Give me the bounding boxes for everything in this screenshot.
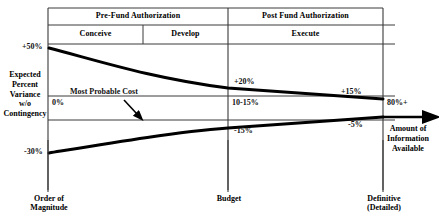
upper-value-order-of-magnitude: +50% (22, 43, 43, 51)
header-stage-execute: Execute (228, 29, 383, 38)
milestone-definitive-line-1: Definitive (351, 194, 417, 203)
milestone-order-of-magnitude-line-1: Order of (16, 194, 82, 203)
x-axis-label-line-3: Available (378, 144, 438, 154)
lower-value-order-of-magnitude: -30% (24, 148, 43, 156)
header-phase-post-fund: Post Fund Authorization (228, 11, 383, 20)
upper-value-definitive: +15% (341, 88, 362, 96)
x-axis-label-line-2: Information (378, 134, 438, 144)
milestone-order-of-magnitude-line-2: Magnitude (16, 203, 82, 212)
y-axis-label-line-5: Contingency (2, 109, 48, 119)
lower-value-budget: -15% (234, 127, 253, 135)
milestone-order-of-magnitude: Order of Magnitude (16, 194, 82, 213)
baseline-value-budget: 10-15% (232, 99, 259, 107)
y-axis-label-line-3: Variance (2, 90, 48, 100)
lower-bound-curve (49, 117, 383, 153)
cost-estimate-accuracy-diagram: Pre-Fund Authorization Post Fund Authori… (0, 0, 439, 223)
upper-value-budget: +20% (234, 78, 255, 86)
x-axis-label-line-1: Amount of (378, 124, 438, 134)
most-probable-cost-leader-arrow (124, 100, 137, 114)
lower-value-definitive: -5% (348, 121, 363, 129)
most-probable-cost-label: Most Probable Cost (70, 88, 138, 96)
header-stage-conceive: Conceive (48, 29, 143, 38)
milestone-budget-line-1: Budget (196, 194, 262, 203)
x-axis-label: Amount of Information Available (378, 124, 438, 153)
milestone-definitive-line-2: (Detailed) (351, 203, 417, 212)
y-axis-label: Expected Percent Variance w/o Contingenc… (2, 70, 48, 119)
milestone-budget: Budget (196, 194, 262, 203)
baseline-value-definitive: 80%+ (387, 99, 408, 107)
header-phase-pre-fund: Pre-Fund Authorization (48, 11, 228, 20)
y-axis-label-line-1: Expected (2, 70, 48, 80)
header-stage-develop: Develop (143, 29, 228, 38)
milestone-definitive: Definitive (Detailed) (351, 194, 417, 213)
y-axis-label-line-4: w/o (2, 99, 48, 109)
plot-axes (48, 44, 395, 190)
milestone-ticks (48, 140, 383, 192)
y-axis-label-line-2: Percent (2, 80, 48, 90)
baseline-value-order-of-magnitude: 0% (52, 99, 64, 107)
